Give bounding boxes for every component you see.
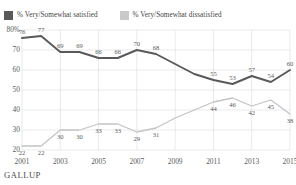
- data-label: 45: [263, 103, 279, 110]
- data-label: 22: [14, 149, 30, 156]
- y-axis-tick: 50: [0, 86, 20, 94]
- data-label: 66: [110, 48, 126, 55]
- legend-label-satisfied: % Very/Somewhat satisfied: [17, 11, 98, 20]
- gallup-brand: GALLUP: [4, 170, 41, 180]
- data-label: 55: [205, 70, 221, 77]
- data-label: 76: [14, 28, 30, 35]
- data-label: 22: [33, 149, 49, 156]
- x-axis-tick: 2007: [124, 157, 150, 166]
- legend-swatch-satisfied-icon: [4, 11, 13, 20]
- data-label: 66: [91, 48, 107, 55]
- x-axis-tick: 2005: [86, 157, 112, 166]
- data-label: 38: [282, 117, 296, 124]
- x-axis-tick: 2011: [200, 157, 226, 166]
- data-label: 42: [244, 109, 260, 116]
- y-axis-tick: 60: [0, 66, 20, 74]
- data-label: 44: [205, 105, 221, 112]
- data-label: 33: [110, 127, 126, 134]
- series-lines: [22, 36, 290, 146]
- data-label: 68: [148, 44, 164, 51]
- data-label: 29: [129, 135, 145, 142]
- data-label: 60: [282, 60, 296, 67]
- legend-entry-satisfied: % Very/Somewhat satisfied: [4, 11, 98, 20]
- data-label: 30: [52, 133, 68, 140]
- data-label: 46: [225, 101, 241, 108]
- data-label: 31: [148, 131, 164, 138]
- data-label: 57: [244, 66, 260, 73]
- x-axis-tick: 2003: [47, 157, 73, 166]
- x-axis-tick: 2015: [277, 157, 296, 166]
- data-label: 77: [33, 26, 49, 33]
- x-axis-tick: 2013: [239, 157, 265, 166]
- data-label: 69: [52, 42, 68, 49]
- legend-swatch-dissatisfied-icon: [120, 11, 129, 20]
- plot-area: 80%706050403020 767769696666706855535754…: [0, 24, 296, 156]
- x-axis-tick: 2001: [9, 157, 35, 166]
- legend-entry-dissatisfied: % Very/Somewhat dissatisfied: [120, 11, 222, 20]
- y-axis-tick: 30: [0, 126, 20, 134]
- chart-legend: % Very/Somewhat satisfied % Very/Somewha…: [4, 8, 294, 22]
- gallup-line-chart: % Very/Somewhat satisfied % Very/Somewha…: [0, 0, 296, 185]
- data-label: 33: [91, 127, 107, 134]
- data-label: 54: [263, 72, 279, 79]
- data-label: 69: [71, 42, 87, 49]
- y-axis-tick: 70: [0, 46, 20, 54]
- x-axis-tick: 2009: [162, 157, 188, 166]
- data-label: 70: [129, 40, 145, 47]
- x-axis-labels: 20012003200520072009201120132015: [0, 157, 296, 169]
- y-axis-tick: 40: [0, 106, 20, 114]
- data-label: 53: [225, 74, 241, 81]
- legend-label-dissatisfied: % Very/Somewhat dissatisfied: [133, 11, 222, 20]
- data-label: 30: [71, 133, 87, 140]
